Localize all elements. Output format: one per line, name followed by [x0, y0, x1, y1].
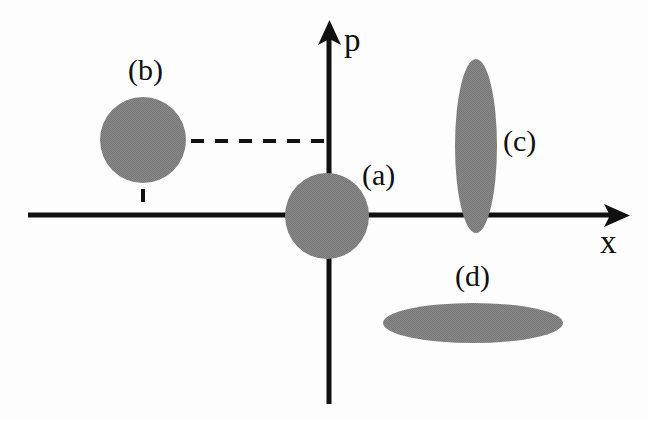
blob-label-c: (c)	[503, 126, 536, 156]
blob-a	[285, 173, 369, 259]
blob-b	[100, 97, 186, 183]
y-axis-label: p	[344, 24, 361, 57]
blob-c	[455, 59, 497, 233]
blob-label-d: (d)	[455, 261, 490, 291]
blob-d	[383, 303, 563, 343]
diagram-canvas	[0, 0, 648, 421]
x-axis-label: x	[600, 226, 617, 259]
blob-label-a: (a)	[362, 160, 395, 190]
blob-label-b: (b)	[128, 55, 163, 85]
phase-space-diagram: (a) (b) (c) (d) p x	[0, 0, 648, 421]
